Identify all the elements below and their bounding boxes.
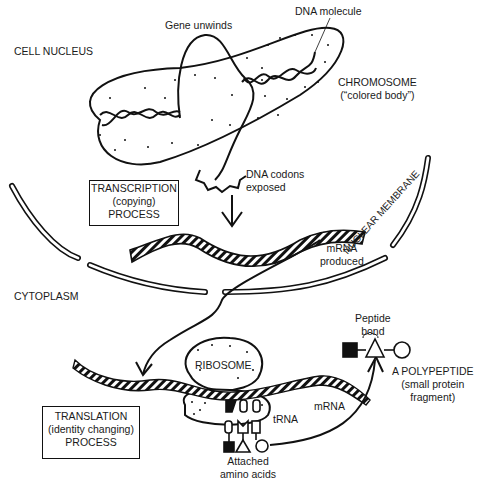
dna-codons-line1: DNA codons	[246, 168, 304, 181]
dna-codons-label: DNA codons exposed	[246, 168, 304, 194]
attached-line1: Attached	[220, 455, 276, 468]
polypeptide-line2: (small protein	[392, 378, 474, 391]
cytoplasm-label: CYTOPLASM	[14, 290, 79, 303]
translation-subtitle: (identity changing)	[43, 423, 139, 436]
gene-unwinds-label: Gene unwinds	[165, 19, 232, 32]
gene-loop	[178, 35, 253, 180]
peptide-bond-label: Peptide bond	[355, 312, 391, 338]
attached-line2: amino acids	[220, 468, 276, 481]
attached-amino-acids-label: Attached amino acids	[220, 455, 276, 481]
chromosome-label-line2: (“colored body”)	[338, 89, 417, 102]
polypeptide-line3: fragment)	[392, 391, 474, 404]
transcription-box: TRANSCRIPTION (copying) PROCESS	[89, 180, 179, 226]
polypeptide-line1: A POLYPEPTIDE	[392, 365, 474, 378]
dna-helix-right	[242, 52, 316, 84]
mrna-produced-line2: produced	[320, 255, 364, 268]
chromosome-label-line1: CHROMOSOME	[338, 76, 417, 89]
dna-codons-line2: exposed	[246, 181, 304, 194]
cell-nucleus-label: CELL NUCLEUS	[14, 45, 93, 58]
transcription-process: PROCESS	[90, 208, 178, 221]
chromosome-label: CHROMOSOME (“colored body”)	[338, 76, 417, 102]
dna-molecule-pointer	[315, 18, 330, 52]
polypeptide-label: A POLYPEPTIDE (small protein fragment)	[392, 365, 474, 404]
translation-process: PROCESS	[43, 436, 139, 449]
trna-label: tRNA	[273, 413, 298, 426]
peptide-line2: bond	[355, 325, 391, 338]
chromosome	[90, 28, 343, 165]
transcription-arrow	[222, 195, 242, 226]
dna-molecule-label: DNA molecule	[295, 5, 362, 18]
amino-acids-attached	[224, 440, 268, 452]
dna-helix-left	[100, 109, 180, 125]
translation-box: TRANSLATION (identity changing) PROCESS	[42, 406, 140, 459]
peptide-line1: Peptide	[355, 312, 391, 325]
transcription-subtitle: (copying)	[90, 195, 178, 208]
translation-title: TRANSLATION	[43, 410, 139, 423]
transcription-title: TRANSCRIPTION	[90, 182, 178, 195]
protein-synthesis-diagram: CELL NUCLEUS Gene unwinds DNA molecule C…	[0, 0, 485, 487]
ribosome-label: RIBOSOME	[195, 359, 252, 372]
mrna-label: mRNA	[314, 400, 345, 413]
chromosome-dots	[99, 34, 329, 151]
